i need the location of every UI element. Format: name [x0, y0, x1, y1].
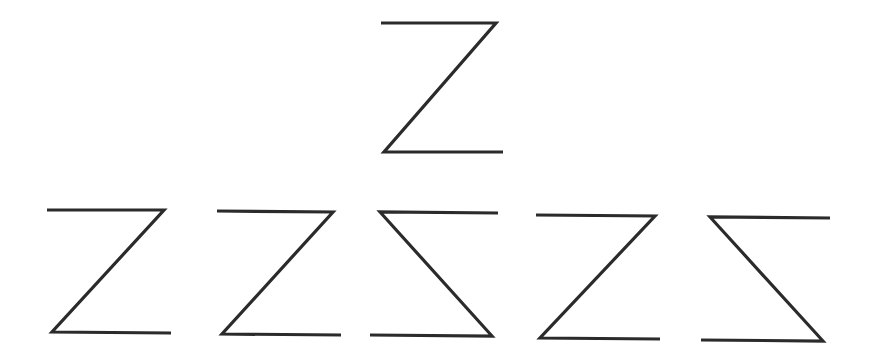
option-2-z-shape[interactable]	[217, 211, 341, 335]
target-z-shape	[381, 23, 503, 152]
option-3-polyline[interactable]	[370, 212, 498, 336]
option-5-polyline[interactable]	[701, 217, 830, 341]
option-1-polyline[interactable]	[47, 210, 171, 333]
mental-rotation-figure	[0, 0, 878, 355]
option-4-polyline[interactable]	[536, 215, 660, 339]
target-z-polyline	[381, 23, 503, 152]
option-3-mirrored-z-shape[interactable]	[370, 212, 498, 336]
option-5-mirrored-z-shape[interactable]	[701, 217, 830, 341]
option-2-polyline[interactable]	[217, 211, 341, 335]
option-4-z-shape[interactable]	[536, 215, 660, 339]
option-1-z-shape[interactable]	[47, 210, 171, 333]
